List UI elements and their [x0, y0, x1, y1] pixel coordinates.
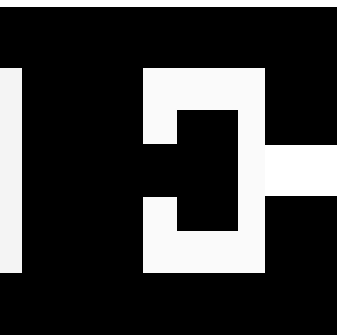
- geometric-artwork: [0, 0, 342, 336]
- right-white-notch: [265, 145, 342, 196]
- inner-black-square: [177, 110, 238, 231]
- left-white-strip: [0, 68, 22, 273]
- left-black-tab: [143, 144, 177, 197]
